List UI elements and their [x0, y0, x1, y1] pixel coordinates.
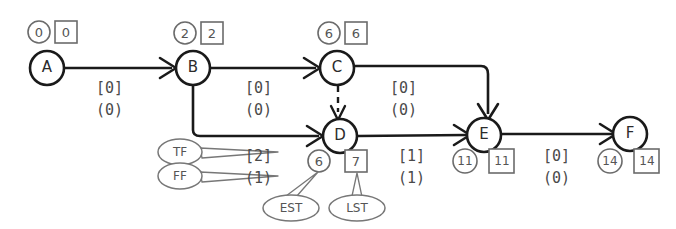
callout-tail-est — [286, 172, 318, 197]
edge-label-e-f-tf: [0] — [543, 146, 570, 166]
lst-value-b: 2 — [198, 27, 226, 40]
edge-label-a-b-ff: (0) — [96, 100, 123, 120]
edge-label-b-c-tf: [0] — [245, 78, 272, 98]
edge-label-d-e-ff: (1) — [398, 168, 425, 188]
edge-label-c-e-ff: (0) — [390, 100, 417, 120]
lst-value-f: 14 — [633, 155, 661, 167]
node-circle-f[interactable] — [613, 117, 647, 151]
lst-value-d: 7 — [342, 155, 370, 168]
edge-label-b-d-tf: [2] — [245, 146, 272, 166]
edge-c-e — [355, 66, 498, 120]
edge-label-b-d-ff: (1) — [245, 168, 272, 188]
node-circle-d[interactable] — [323, 119, 357, 153]
diagram-canvas: A B C D E F 0 0 2 2 6 6 6 7 11 11 14 14 … — [0, 0, 676, 229]
edge-label-a-b-tf: [0] — [96, 78, 123, 98]
callout-label-est: EST — [263, 202, 319, 214]
edge-d-e — [358, 125, 470, 145]
est-value-b: 2 — [171, 27, 199, 40]
callout-label-ff: FF — [158, 170, 202, 182]
node-circle-e[interactable] — [467, 118, 501, 152]
edge-label-c-e-tf: [0] — [390, 78, 417, 98]
edge-label-d-e-tf: [1] — [398, 146, 425, 166]
lst-value-a: 0 — [52, 26, 80, 39]
est-value-c: 6 — [315, 27, 343, 40]
est-value-a: 0 — [25, 26, 53, 39]
est-value-e: 11 — [451, 155, 479, 167]
edge-label-b-c-ff: (0) — [245, 100, 272, 120]
edge-label-e-f-ff: (0) — [543, 168, 570, 188]
est-value-d: 6 — [305, 155, 333, 168]
edge-b-c — [211, 58, 320, 78]
node-circle-c[interactable] — [320, 51, 354, 85]
lst-value-c: 6 — [342, 27, 370, 40]
est-value-f: 14 — [596, 155, 624, 167]
node-circle-b[interactable] — [176, 51, 210, 85]
lst-value-e: 11 — [488, 155, 516, 167]
edge-a-b — [65, 58, 176, 78]
edge-c-d-dummy — [331, 86, 345, 120]
callout-tail-lst — [352, 173, 362, 197]
edge-e-f — [502, 124, 616, 144]
callout-label-lst: LST — [329, 202, 385, 214]
node-circle-a[interactable] — [30, 51, 64, 85]
callout-label-tf: TF — [158, 146, 202, 158]
